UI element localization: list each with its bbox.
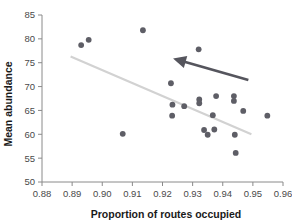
arrow-shaft (183, 61, 249, 80)
y-tick-label: 65 (24, 105, 35, 116)
x-tick-label: 0.90 (93, 188, 112, 199)
data-point (201, 127, 207, 133)
x-axis-title: Proportion of routes occupied (91, 208, 242, 220)
data-point (264, 113, 270, 119)
annotation-arrow (173, 56, 248, 80)
x-axis-ticks: 0.880.890.900.910.920.930.940.950.96 (33, 182, 292, 199)
data-point (170, 102, 176, 108)
y-tick-label: 70 (24, 81, 35, 92)
y-axis-ticks: 5055606570758085 (24, 9, 42, 187)
data-point (169, 113, 175, 119)
trend-line (71, 57, 252, 135)
data-point (231, 98, 237, 104)
y-axis-title: Mean abundance (2, 61, 14, 146)
data-point (210, 112, 216, 118)
data-point (211, 127, 217, 133)
y-tick-label: 50 (24, 176, 35, 187)
x-tick-label: 0.93 (183, 188, 202, 199)
x-tick-label: 0.91 (123, 188, 142, 199)
x-tick-label: 0.96 (274, 188, 292, 199)
scatter-chart: 0.880.890.900.910.920.930.940.950.96 505… (0, 0, 292, 224)
data-point (181, 103, 187, 109)
data-point (168, 80, 174, 86)
x-tick-label: 0.94 (214, 188, 233, 199)
axis-spine (42, 15, 283, 182)
data-point (232, 132, 238, 138)
data-point (86, 37, 92, 43)
y-tick-label: 85 (24, 9, 35, 20)
x-tick-label: 0.88 (33, 188, 52, 199)
axes (42, 15, 283, 182)
data-point (196, 100, 202, 106)
plot-area: 0.880.890.900.910.920.930.940.950.96 505… (0, 0, 292, 224)
data-point (78, 42, 84, 48)
arrow-head (173, 56, 187, 68)
x-tick-label: 0.95 (244, 188, 263, 199)
data-point (196, 46, 202, 52)
x-tick-label: 0.89 (63, 188, 82, 199)
regression-line (71, 57, 252, 135)
y-tick-label: 80 (24, 33, 35, 44)
data-point (120, 131, 126, 137)
data-point (140, 27, 146, 33)
data-point (233, 150, 239, 156)
data-point (213, 93, 219, 99)
data-point (205, 132, 211, 138)
y-tick-label: 60 (24, 129, 35, 140)
x-tick-label: 0.92 (153, 188, 172, 199)
data-point (240, 108, 246, 114)
y-tick-label: 55 (24, 153, 35, 164)
y-tick-label: 75 (24, 57, 35, 68)
data-points (78, 27, 270, 155)
